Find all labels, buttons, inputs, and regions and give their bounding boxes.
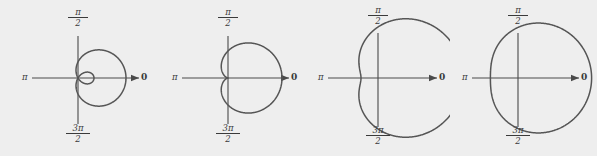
label-half-pi-denominator: 2 [68, 19, 88, 28]
label-half-pi: π 2 [508, 6, 528, 26]
label-three-half-pi-numerator: 3π [216, 124, 240, 133]
label-three-half-pi-numerator: 3π [366, 126, 390, 135]
label-three-half-pi: 3π 2 [366, 126, 390, 146]
label-three-half-pi-denominator: 2 [66, 135, 90, 144]
label-zero-right: 0 [291, 72, 297, 82]
panel-4-axes [472, 33, 579, 127]
panel-dimpled-limacon: π 2 3π 2 π 0 [300, 0, 450, 156]
label-half-pi-denominator: 2 [368, 17, 388, 26]
label-three-half-pi-denominator: 2 [216, 135, 240, 144]
label-pi-left: π [462, 72, 468, 82]
horizontal-axis-arrowhead [131, 75, 139, 81]
label-zero-right: 0 [581, 72, 587, 82]
horizontal-axis-arrowhead [571, 75, 579, 81]
horizontal-axis-arrowhead [429, 75, 437, 81]
panel-limacon-with-inner-loop: π 2 3π 2 π 0 [0, 0, 150, 156]
label-half-pi: π 2 [368, 6, 388, 26]
label-half-pi-numerator: π [68, 8, 88, 17]
label-three-half-pi-denominator: 2 [366, 137, 390, 146]
label-half-pi-numerator: π [218, 8, 238, 17]
label-half-pi-denominator: 2 [218, 19, 238, 28]
label-half-pi: π 2 [218, 8, 238, 28]
label-three-half-pi: 3π 2 [506, 126, 530, 146]
label-three-half-pi-denominator: 2 [506, 137, 530, 146]
label-three-half-pi: 3π 2 [216, 124, 240, 144]
panel-1-axes [32, 36, 139, 124]
polar-limacon-figure: π 2 3π 2 π 0 π 2 3π 2 [0, 0, 597, 156]
label-three-half-pi: 3π 2 [66, 124, 90, 144]
label-pi-left: π [318, 72, 324, 82]
panel-3-axes [328, 33, 437, 127]
panel-cardioid: π 2 3π 2 π 0 [150, 0, 300, 156]
label-half-pi-numerator: π [368, 6, 388, 15]
label-three-half-pi-numerator: 3π [66, 124, 90, 133]
label-pi-left: π [22, 72, 28, 82]
panel-convex-limacon: π 2 3π 2 π 0 [447, 0, 597, 156]
label-three-half-pi-numerator: 3π [506, 126, 530, 135]
label-pi-left: π [172, 72, 178, 82]
label-half-pi-denominator: 2 [508, 17, 528, 26]
label-half-pi: π 2 [68, 8, 88, 28]
label-half-pi-numerator: π [508, 6, 528, 15]
label-zero-right: 0 [439, 72, 445, 82]
label-zero-right: 0 [141, 72, 147, 82]
